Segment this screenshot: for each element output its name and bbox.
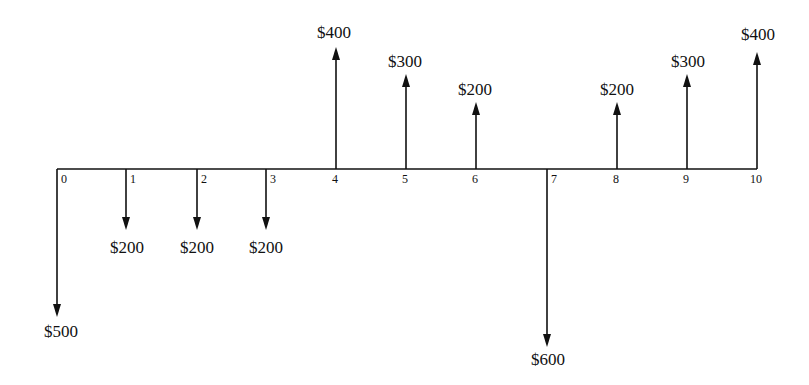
arrow-down-period-7 [543, 169, 551, 347]
arrow-up-period-4 [332, 47, 340, 169]
amount-label-period-7: $600 [531, 350, 565, 370]
amount-label-period-8: $200 [600, 80, 634, 100]
amount-label-period-10: $400 [741, 25, 775, 45]
arrow-down-period-3 [262, 169, 270, 230]
amount-label-period-3: $200 [249, 238, 283, 258]
amount-label-period-9: $300 [671, 52, 705, 72]
period-label-6: 6 [472, 172, 478, 187]
period-label-2: 2 [201, 172, 207, 187]
arrow-up-period-9 [683, 74, 691, 169]
period-label-0: 0 [61, 172, 67, 187]
cash-flow-diagram: 0 1 2 3 4 5 6 7 8 9 10 $500 $200 $200 $2… [0, 0, 809, 385]
arrow-up-period-5 [402, 74, 410, 169]
period-label-8: 8 [613, 172, 619, 187]
period-label-9: 9 [683, 172, 689, 187]
period-label-7: 7 [551, 172, 557, 187]
amount-label-period-0: $500 [44, 322, 78, 342]
period-label-5: 5 [402, 172, 408, 187]
arrow-down-period-0 [53, 169, 61, 317]
amount-label-period-6: $200 [458, 80, 492, 100]
arrow-up-period-6 [472, 102, 480, 169]
period-label-10: 10 [750, 172, 762, 187]
period-label-1: 1 [130, 172, 136, 187]
amount-label-period-4: $400 [317, 23, 351, 43]
amount-label-period-1: $200 [110, 238, 144, 258]
amount-label-period-5: $300 [388, 52, 422, 72]
arrow-up-period-8 [613, 102, 621, 169]
period-label-3: 3 [270, 172, 276, 187]
arrow-down-period-2 [193, 169, 201, 230]
arrow-up-period-10 [753, 52, 761, 169]
arrow-down-period-1 [122, 169, 130, 230]
amount-label-period-2: $200 [180, 238, 214, 258]
period-label-4: 4 [332, 172, 338, 187]
